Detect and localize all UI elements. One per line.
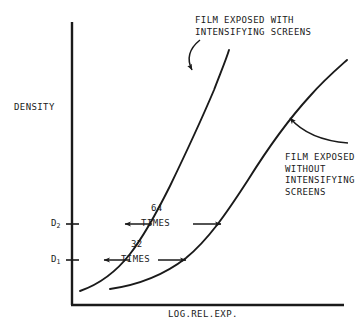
annotation-with-intensifying-screens: FILM EXPOSED WITH INTENSIFYING SCREENS [195,15,311,38]
y-tick-label-d1: D1 [51,254,60,266]
measure-label-32-value: 32 [131,239,143,251]
measure-label-32-unit: TIMES [121,254,150,266]
leader-line-with-screens [189,40,200,70]
annotation-without-intensifying-screens: FILM EXPOSED WITHOUT INTENSIFYING SCREEN… [285,152,355,198]
y-tick-label-d2-sub: 2 [56,222,60,230]
x-axis-title: LOG.REL.EXP. [168,309,238,321]
measure-label-64-value: 64 [151,203,163,215]
leader-line-without-screens [290,118,348,143]
y-axis-title: DENSITY [14,102,55,114]
measure-label-64-unit: TIMES [141,218,170,230]
figure-characteristic-curves: FILM EXPOSED WITH INTENSIFYING SCREENS F… [0,0,356,334]
y-tick-label-d1-sub: 1 [56,258,60,266]
curve-with-intensifying-screens [80,50,229,291]
y-tick-label-d2: D2 [51,218,60,230]
